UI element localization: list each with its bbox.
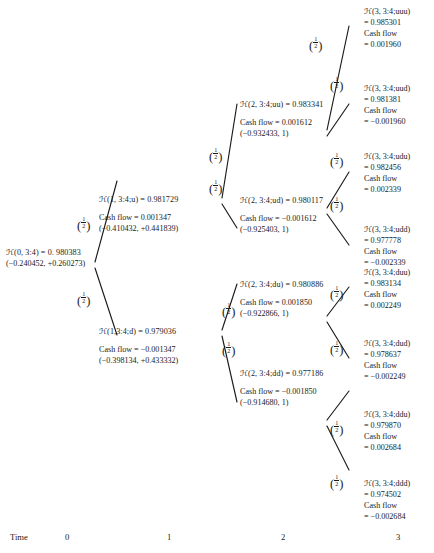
node-ddu-value: = 0.979870	[364, 420, 410, 431]
node-ud: ℋ(2, 3:4;ud) = 0.980117 Cash flow = −0.0…	[240, 195, 323, 236]
probability-label-u-ud: (12)	[209, 179, 222, 193]
edge-u-uu	[222, 104, 237, 198]
probability-label-ud-udd: (12)	[330, 196, 343, 210]
node-uuu: ℋ(3, 3:4;uuu) = 0.985301 Cash flow = 0.0…	[364, 6, 410, 50]
node-ddu-cash-flow-label: Cash flow	[364, 431, 410, 442]
node-ud-pair: (−0.925403, 1)	[240, 224, 323, 235]
node-du-value: ℋ(2, 3:4;du) = 0.980886	[240, 279, 323, 290]
node-uuu-cash-flow-value: = 0.001960	[364, 39, 410, 50]
probability-label-ud-udu: (12)	[330, 152, 343, 166]
node-uuu-value: = 0.985301	[364, 17, 410, 28]
edge-dd-ddu	[327, 391, 349, 420]
probability-label-uu-uuu: (12)	[309, 36, 322, 50]
node-udu-value: = 0.982456	[364, 162, 410, 173]
node-uud-name: ℋ(3, 3:4;uud)	[364, 83, 410, 94]
probability-label-dd-ddu: (12)	[330, 420, 343, 434]
node-d: ℋ(1,3:4;d) = 0.979036 Cash flow = −0.001…	[99, 326, 178, 367]
time-axis-label: Time	[10, 532, 28, 542]
node-uud-value: = 0.981381	[364, 94, 410, 105]
node-uud-cash-flow-label: Cash flow	[364, 105, 410, 116]
node-udd-name: ℋ(3, 3:4;udd)	[364, 224, 410, 235]
node-dd-cash-flow: Cash flow = −0.001850	[240, 386, 323, 397]
node-du-pair: (−0.922866, 1)	[240, 308, 323, 319]
node-ddd: ℋ(3, 3:4;ddd) = 0.974502 Cash flow = −0.…	[364, 478, 410, 522]
binomial-tree-diagram: ℋ(0, 3:4) = 0. 980383 (−0.240452, +0.260…	[0, 0, 434, 553]
node-duu-value: = 0.983134	[364, 278, 410, 289]
node-dud-value: = 0.978637	[364, 349, 410, 360]
node-du-cash-flow: Cash flow = 0.001850	[240, 297, 323, 308]
edge-uu-uud	[327, 104, 349, 136]
node-udd: ℋ(3, 3:4;udd) = 0.977778 Cash flow = −0.…	[364, 224, 410, 268]
probability-label-d-du: (12)	[222, 302, 235, 316]
node-ddu-name: ℋ(3, 3:4;ddu)	[364, 409, 410, 420]
node-dud: ℋ(3, 3:4;dud) = 0.978637 Cash flow = −0.…	[364, 338, 410, 382]
node-u-value: ℋ(1, 3:4;u) = 0.981729	[99, 194, 178, 205]
node-uu-value: ℋ(2, 3:4;uu) = 0.983341	[240, 99, 323, 110]
node-dd: ℋ(2, 3:4;dd) = 0.977186 Cash flow = −0.0…	[240, 368, 323, 409]
probability-label-d-dd: (12)	[222, 341, 235, 355]
node-ddd-cash-flow-label: Cash flow	[364, 500, 410, 511]
probability-label-uu-uud: (12)	[330, 76, 343, 90]
time-tick-3: 3	[396, 532, 400, 542]
node-root: ℋ(0, 3:4) = 0. 980383 (−0.240452, +0.260…	[6, 247, 85, 269]
time-tick-1: 1	[167, 532, 171, 542]
probability-label-du-duu: (12)	[330, 285, 343, 299]
node-dud-cash-flow-label: Cash flow	[364, 360, 410, 371]
node-u-pair: (−0.410432, +0.441839)	[99, 223, 178, 234]
node-uud: ℋ(3, 3:4;uud) = 0.981381 Cash flow = −0.…	[364, 83, 410, 127]
node-ddd-value: = 0.974502	[364, 489, 410, 500]
node-ud-value: ℋ(2, 3:4;ud) = 0.980117	[240, 195, 323, 206]
node-ud-cash-flow: Cash flow = −0.001612	[240, 213, 323, 224]
node-d-pair: (−0.398134, +0.433332)	[99, 355, 178, 366]
node-uuu-cash-flow-label: Cash flow	[364, 28, 410, 39]
node-u: ℋ(1, 3:4;u) = 0.981729 Cash flow = 0.001…	[99, 194, 178, 235]
node-ddd-name: ℋ(3, 3:4;ddd)	[364, 478, 410, 489]
node-duu-name: ℋ(3, 3:4;duu)	[364, 267, 410, 278]
node-udd-cash-flow-label: Cash flow	[364, 246, 410, 257]
node-ddu-cash-flow-value: = 0.002684	[364, 442, 410, 453]
probability-label-root-u: (12)	[77, 216, 90, 230]
node-udu: ℋ(3, 3:4;udu) = 0.982456 Cash flow = 0.0…	[364, 151, 410, 195]
node-dud-cash-flow-value: = −0.002249	[364, 371, 410, 382]
node-ddd-cash-flow-value: = −0.002684	[364, 511, 410, 522]
probability-label-dd-ddd: (12)	[330, 474, 343, 488]
node-uu-cash-flow: Cash flow = 0.001612	[240, 117, 323, 128]
node-dd-pair: (−0.914680, 1)	[240, 397, 323, 408]
node-uu-pair: (−0.932433, 1)	[240, 128, 323, 139]
node-uud-cash-flow-value: = −0.001960	[364, 116, 410, 127]
probability-label-u-uu: (12)	[209, 147, 222, 161]
edge-ud-udd	[327, 214, 349, 245]
node-udu-name: ℋ(3, 3:4;udu)	[364, 151, 410, 162]
node-duu-cash-flow-label: Cash flow	[364, 289, 410, 300]
node-dd-value: ℋ(2, 3:4;dd) = 0.977186	[240, 368, 323, 379]
time-tick-0: 0	[65, 532, 69, 542]
probability-label-root-d: (12)	[77, 291, 90, 305]
node-udu-cash-flow-value: = 0.002339	[364, 184, 410, 195]
node-udu-cash-flow-label: Cash flow	[364, 173, 410, 184]
node-duu-cash-flow-value: = 0.002249	[364, 300, 410, 311]
node-root-pair: (−0.240452, +0.260273)	[6, 258, 85, 269]
node-d-value: ℋ(1,3:4;d) = 0.979036	[99, 326, 178, 337]
node-uuu-name: ℋ(3, 3:4;uuu)	[364, 6, 410, 17]
node-d-cash-flow: Cash flow = −0.001347	[99, 344, 178, 355]
edge-u-ud	[222, 204, 237, 228]
probability-label-du-dud: (12)	[330, 340, 343, 354]
node-uu: ℋ(2, 3:4;uu) = 0.983341 Cash flow = 0.00…	[240, 99, 323, 140]
time-tick-2: 2	[281, 532, 285, 542]
node-u-cash-flow: Cash flow = 0.001347	[99, 212, 178, 223]
node-duu: ℋ(3, 3:4;duu) = 0.983134 Cash flow = 0.0…	[364, 267, 410, 311]
node-udd-value: = 0.977778	[364, 235, 410, 246]
node-dud-name: ℋ(3, 3:4;dud)	[364, 338, 410, 349]
node-du: ℋ(2, 3:4;du) = 0.980886 Cash flow = 0.00…	[240, 279, 323, 320]
node-root-value: ℋ(0, 3:4) = 0. 980383	[6, 247, 85, 258]
node-ddu: ℋ(3, 3:4;ddu) = 0.979870 Cash flow = 0.0…	[364, 409, 410, 453]
edge-root-d	[95, 268, 117, 335]
